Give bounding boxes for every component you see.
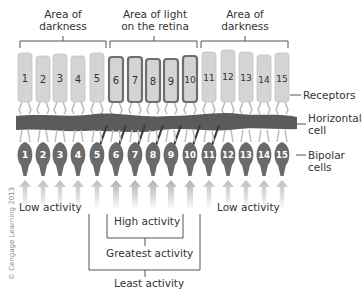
receptor-13: 13 xyxy=(239,52,253,102)
receptor-number: 11 xyxy=(203,73,214,83)
receptor-15: 15 xyxy=(275,53,289,102)
label-low-activity-right: Low activity xyxy=(217,201,280,213)
receptor-8: 8 xyxy=(146,59,160,102)
receptor-7: 7 xyxy=(128,57,142,102)
bipolar-number: 3 xyxy=(57,149,64,160)
activity-arrow-6 xyxy=(110,180,122,210)
label-low-activity-left: Low activity xyxy=(19,201,82,213)
receptor-10: 10 xyxy=(183,56,197,102)
bipolar-number: 9 xyxy=(168,149,175,160)
bipolar-cell-1: 1 xyxy=(18,130,33,176)
receptor-2: 2 xyxy=(36,56,50,102)
receptor-number: 5 xyxy=(94,73,100,84)
bracket-right-dark xyxy=(201,36,288,48)
bipolar-cell-12: 12 xyxy=(221,130,236,176)
receptor-3: 3 xyxy=(53,54,67,102)
label-right-darkness: Area of darkness xyxy=(214,8,276,32)
horizontal-cell xyxy=(16,113,297,132)
bracket-light xyxy=(110,36,197,48)
activity-arrow-8 xyxy=(147,180,159,210)
label-line: Area of xyxy=(214,8,276,20)
bipolar-number: 13 xyxy=(240,150,252,160)
receptor-14: 14 xyxy=(257,55,271,102)
receptor-number: 12 xyxy=(222,72,233,82)
bracket-left-dark xyxy=(20,36,106,48)
receptor-6: 6 xyxy=(109,57,123,102)
label-line: darkness xyxy=(32,20,94,32)
receptor-1: 1 xyxy=(18,53,32,102)
label-line: on the retina xyxy=(113,20,197,32)
bipolar-cell-14: 14 xyxy=(257,130,272,176)
label-line: cell xyxy=(308,124,362,136)
bipolar-number: 12 xyxy=(222,150,234,160)
label-high-activity: High activity xyxy=(114,215,180,227)
label-greatest-activity: Greatest activity xyxy=(106,247,193,259)
receptor-number: 3 xyxy=(57,73,63,84)
receptor-row: 123456789101112131415 xyxy=(18,50,289,102)
receptor-number: 7 xyxy=(132,75,138,86)
bipolar-cell-2: 2 xyxy=(36,130,51,176)
receptor-number: 14 xyxy=(258,75,270,85)
receptor-12: 12 xyxy=(221,50,235,102)
label-line: Area of light xyxy=(113,8,197,20)
receptor-number: 1 xyxy=(22,73,28,84)
label-line: Area of xyxy=(32,8,94,20)
receptor-stalks xyxy=(19,102,288,114)
label-receptors: Receptors xyxy=(303,89,356,101)
receptor-number: 4 xyxy=(75,74,81,85)
activity-arrow-10 xyxy=(184,180,196,210)
label-line: Horizontal xyxy=(308,112,362,124)
bipolar-cell-15: 15 xyxy=(275,130,290,176)
bipolar-number: 4 xyxy=(75,149,82,160)
bipolar-number: 5 xyxy=(94,149,101,160)
bipolar-number: 2 xyxy=(40,149,47,160)
bipolar-cell-3: 3 xyxy=(53,130,68,176)
activity-arrow-11 xyxy=(203,180,215,210)
receptor-number: 15 xyxy=(276,74,287,84)
receptor-number: 9 xyxy=(168,76,174,87)
label-line: darkness xyxy=(214,20,276,32)
bipolar-number: 11 xyxy=(203,150,215,160)
bipolar-number: 8 xyxy=(150,149,157,160)
bipolar-number: 6 xyxy=(113,149,120,160)
copyright-notice: © Cengage Learning 2013 xyxy=(8,200,16,280)
receptor-number: 13 xyxy=(240,73,251,83)
receptor-number: 8 xyxy=(150,76,156,87)
label-bipolar-cells: Bipolar cells xyxy=(308,149,345,173)
label-horizontal-cell: Horizontal cell xyxy=(308,112,362,136)
bipolar-number: 15 xyxy=(276,150,288,160)
bipolar-number: 10 xyxy=(184,150,196,160)
label-least-activity: Least activity xyxy=(114,277,184,289)
receptor-9: 9 xyxy=(164,59,178,102)
receptor-number: 6 xyxy=(113,75,119,86)
bipolar-number: 1 xyxy=(22,149,29,160)
receptor-5: 5 xyxy=(90,53,104,102)
activity-arrow-9 xyxy=(165,180,177,210)
label-left-darkness: Area of darkness xyxy=(32,8,94,32)
receptor-number: 2 xyxy=(40,74,46,85)
receptor-4: 4 xyxy=(71,56,85,102)
bipolar-number: 7 xyxy=(132,149,139,160)
activity-arrow-7 xyxy=(129,180,141,210)
label-light-area: Area of light on the retina xyxy=(113,8,197,32)
bipolar-number: 14 xyxy=(258,150,270,160)
receptor-11: 11 xyxy=(202,52,216,102)
receptor-number: 10 xyxy=(184,75,196,85)
bipolar-row: 123456789101112131415 xyxy=(18,130,290,176)
bipolar-cell-4: 4 xyxy=(71,130,86,176)
label-line: cells xyxy=(308,161,345,173)
bipolar-cell-13: 13 xyxy=(239,130,254,176)
activity-arrow-5 xyxy=(91,180,103,210)
label-line: Bipolar xyxy=(308,149,345,161)
